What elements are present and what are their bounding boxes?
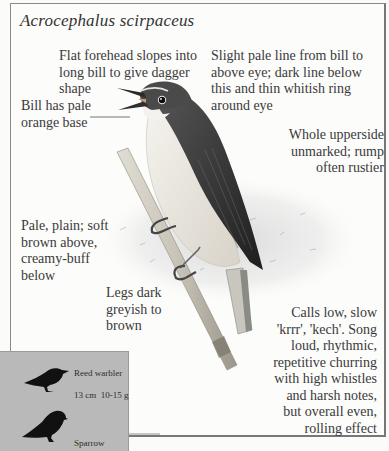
- annotation-line: repetitive churring: [232, 355, 377, 372]
- annotation-line: orange base: [21, 115, 121, 132]
- annotation-line: Flat forehead slopes into: [59, 48, 209, 65]
- annotation-line: creamy-buff: [21, 251, 131, 268]
- annotation-line: 'krrr', 'kech'. Song: [232, 322, 377, 339]
- annotation-line: rolling effect: [232, 421, 377, 438]
- annotation-voice: Calls low, slow 'krrr', 'kech'. Song lou…: [232, 305, 377, 437]
- annotation-legs: Legs dark greyish to brown: [106, 285, 186, 335]
- annotation-line: above eye; dark line below: [211, 65, 386, 82]
- annotation-line: Legs dark: [106, 285, 186, 302]
- annotation-line: brown: [106, 318, 186, 335]
- annotation-line: with high whistles: [232, 371, 377, 388]
- annotation-plumage: Pale, plain; soft brown above, creamy-bu…: [21, 218, 131, 284]
- annotation-forehead: Flat forehead slopes into long bill to g…: [59, 48, 209, 98]
- species-measurements: 13 cm 10-15 g: [74, 390, 129, 400]
- annotation-line: Bill has pale: [21, 98, 121, 115]
- annotation-line: unmarked; rump: [270, 144, 384, 161]
- annotation-line: brown above,: [21, 235, 131, 252]
- annotation-line: but overall even,: [232, 404, 377, 421]
- size-comparison-inset: Reed warbler 13 cm 10-15 g Sparrow: [0, 351, 129, 451]
- annotation-bill: Bill has pale orange base: [21, 98, 121, 131]
- annotation-upperside: Whole upperside unmarked; rump often rus…: [270, 127, 384, 177]
- reference-bird-label: Sparrow: [74, 438, 105, 448]
- annotation-line: Slight pale line from bill to: [211, 48, 386, 65]
- annotation-line: long bill to give dagger: [59, 65, 209, 82]
- species-size-label: Reed warbler: [74, 368, 122, 378]
- annotation-line: below: [21, 268, 131, 285]
- reed-warbler-silhouette-icon: [0, 352, 128, 451]
- annotation-line: and harsh notes,: [232, 388, 377, 405]
- annotation-line: around eye: [211, 98, 386, 115]
- annotation-line: Pale, plain; soft: [21, 218, 131, 235]
- annotation-line: loud, rhythmic,: [232, 338, 377, 355]
- annotation-line: this and thin whitish ring: [211, 81, 386, 98]
- species-title: Acrocephalus scirpaceus: [20, 11, 194, 31]
- annotation-line: often rustier: [270, 160, 384, 177]
- annotation-line: Calls low, slow: [232, 305, 377, 322]
- annotation-line: greyish to: [106, 302, 186, 319]
- annotation-line: shape: [59, 81, 209, 98]
- annotation-line: Whole upperside: [270, 127, 384, 144]
- annotation-eye-line: Slight pale line from bill to above eye;…: [211, 48, 386, 114]
